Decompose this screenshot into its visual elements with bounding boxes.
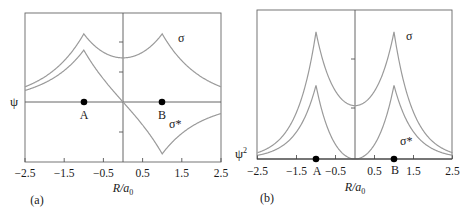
point-label-a-b: A bbox=[313, 164, 322, 178]
nucleus-b-dot bbox=[159, 99, 166, 106]
x-tick-label: 1.5 bbox=[175, 167, 190, 179]
x-tick-label: 2.5 bbox=[214, 167, 229, 179]
x-tick-label: 0.5 bbox=[135, 167, 150, 179]
nucleus-a-dot bbox=[81, 99, 88, 106]
x-tick-label: −2.5 bbox=[15, 167, 36, 179]
point-label-a: A bbox=[80, 108, 89, 122]
x-tick-label: −1.5 bbox=[54, 167, 75, 179]
nucleus-a-dot-b bbox=[313, 156, 320, 163]
y-axis-label-b: ψ2 bbox=[235, 146, 247, 161]
sigma-label-a: σ bbox=[178, 31, 185, 45]
nucleus-b-dot-b bbox=[391, 156, 398, 163]
x-axis-label-a: R/a0 bbox=[112, 181, 134, 197]
plot-frame-b bbox=[257, 10, 452, 159]
x-tick-label: −1.5 bbox=[286, 165, 307, 177]
panel-label-a: (a) bbox=[30, 193, 43, 207]
x-tick-labels-b: −2.5−1.5−0.50.51.52.5 bbox=[247, 165, 460, 177]
sigma-label-b: σ bbox=[406, 29, 413, 43]
figure: ψ A B σ σ* −2.5−1.5−0.50.51.52.5 R/a0 (a… bbox=[0, 0, 467, 216]
x-axis-label-b: R/a0 bbox=[344, 180, 366, 196]
x-tick-label: −0.5 bbox=[93, 167, 114, 179]
x-tick-label: 1.5 bbox=[406, 165, 421, 177]
x-tick-label: 0.5 bbox=[367, 165, 382, 177]
point-label-b: B bbox=[158, 108, 166, 122]
sigma-star-label-a: σ* bbox=[169, 117, 181, 131]
point-label-b-b: B bbox=[391, 163, 399, 177]
x-tick-label: 2.5 bbox=[445, 165, 460, 177]
x-tick-label: −0.5 bbox=[325, 165, 346, 177]
y-axis-label-a: ψ bbox=[10, 94, 18, 109]
panel-label-b: (b) bbox=[260, 191, 274, 205]
sigma-star-label-b: σ* bbox=[400, 134, 412, 148]
x-tick-labels-a: −2.5−1.5−0.50.51.52.5 bbox=[15, 167, 229, 179]
panel-a: ψ A B σ σ* −2.5−1.5−0.50.51.52.5 R/a0 (a… bbox=[10, 13, 229, 207]
y-ticks-b bbox=[351, 59, 355, 108]
x-tick-label: −2.5 bbox=[247, 165, 268, 177]
y-ticks-a bbox=[119, 42, 123, 132]
panel-b: ψ2 σ σ* −2.5−1.5−0.50.51.52.5 A B R/a0 (… bbox=[235, 10, 460, 205]
